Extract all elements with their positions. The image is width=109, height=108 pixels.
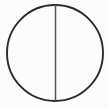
figure-canvas: Circle with vertical diameter A hand-dra…: [0, 0, 109, 108]
line-drawing-svg: [0, 0, 109, 108]
